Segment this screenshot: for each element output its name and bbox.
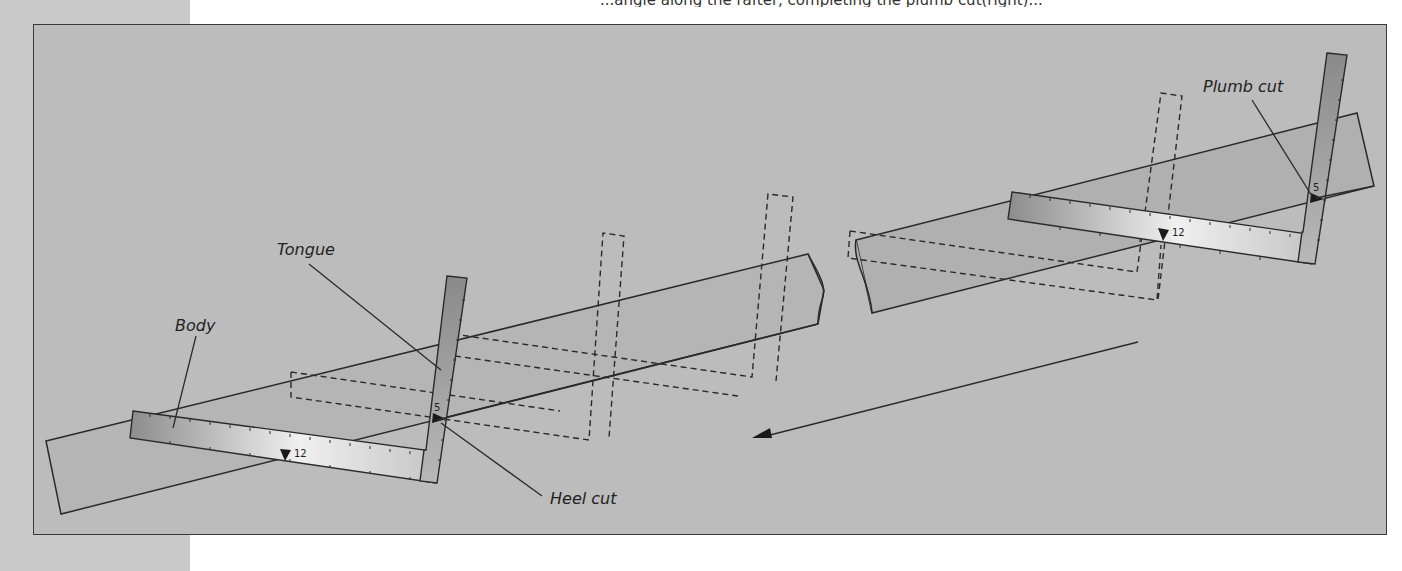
label-tongue: Tongue xyxy=(277,240,335,259)
tongue-mark-5-right: 5 xyxy=(1313,182,1319,193)
rafter-layout-diagram: 12 5 12 5 xyxy=(0,0,1402,571)
tongue-mark-5: 5 xyxy=(434,402,440,413)
label-body: Body xyxy=(175,316,216,335)
body-mark-12-right: 12 xyxy=(1172,227,1185,238)
label-plumb-cut: Plumb cut xyxy=(1203,77,1284,96)
label-heel-cut: Heel cut xyxy=(550,489,617,508)
direction-arrow xyxy=(752,342,1138,438)
body-mark-12: 12 xyxy=(294,448,307,459)
arrowhead-icon xyxy=(752,428,772,438)
